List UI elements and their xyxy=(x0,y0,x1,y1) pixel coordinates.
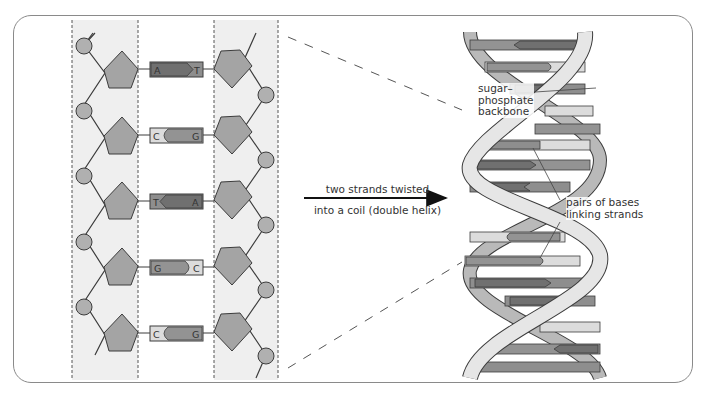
base-label-right: G xyxy=(192,329,199,340)
base-label-right: C xyxy=(193,263,200,274)
bases-label-line1: pairs of bases xyxy=(566,197,643,209)
base-pair-5: C G xyxy=(150,326,203,341)
base-label-right: T xyxy=(193,65,200,76)
base-label-left: C xyxy=(153,329,160,340)
base-label-left: A xyxy=(154,65,161,76)
base-pair-1: A T xyxy=(150,62,203,77)
arrow-label-line1: two strands twisted xyxy=(300,184,455,195)
base-label-left: T xyxy=(152,197,159,208)
base-pair-2: C G xyxy=(150,128,203,143)
zoom-guide-lines xyxy=(288,37,462,368)
arrow-label-line2: into a coil (double helix) xyxy=(300,205,455,216)
backbone-label-line1: sugar– xyxy=(478,83,534,95)
base-pair-4: G C xyxy=(150,260,203,275)
base-label-left: C xyxy=(153,131,160,142)
base-label-right: A xyxy=(192,197,199,208)
bases-label-line2: linking strands xyxy=(566,209,643,221)
base-label-left: G xyxy=(154,263,161,274)
base-label-right: G xyxy=(192,131,199,142)
base-pair-3: T A xyxy=(150,194,203,209)
backbone-label-line3: backbone xyxy=(478,106,534,118)
bases-label: pairs of bases linking strands xyxy=(566,197,643,220)
backbone-label: sugar– phosphate backbone xyxy=(478,83,534,118)
